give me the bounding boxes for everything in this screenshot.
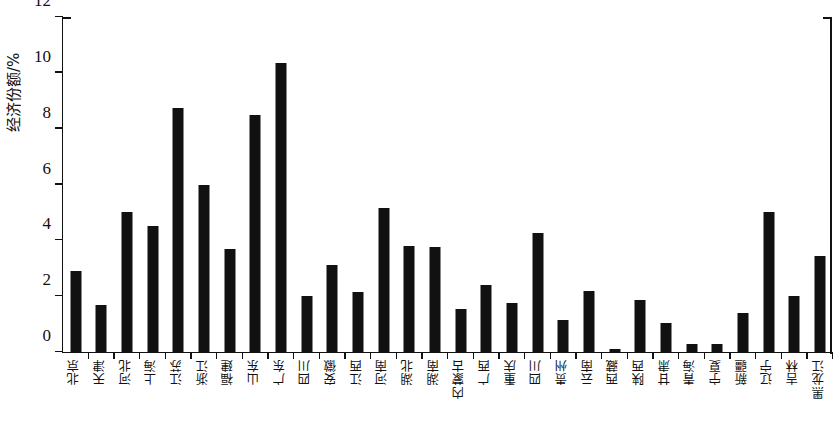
x-tick-mark (704, 352, 705, 359)
bar (661, 323, 672, 352)
bar-slot (653, 18, 679, 352)
bar-slot (499, 18, 525, 352)
x-tick-mark (344, 352, 345, 359)
bar-slot (782, 18, 808, 352)
x-tick-mark (242, 352, 243, 359)
bar (481, 285, 492, 352)
x-axis-label: 福建 (222, 358, 235, 385)
bar-slot (756, 18, 782, 352)
plot-area: 024681012 (62, 18, 832, 353)
x-axis-label: 宁夏 (710, 358, 723, 385)
x-tick-mark (806, 352, 807, 359)
bar (327, 265, 338, 352)
x-tick-mark (165, 352, 166, 359)
bar-slot (217, 18, 243, 352)
x-axis-label: 江苏 (171, 358, 184, 385)
x-tick-mark (575, 352, 576, 359)
bar-slot (448, 18, 474, 352)
y-tick-mark (55, 351, 63, 353)
bar-series (63, 18, 832, 352)
x-axis-label: 黑龙江 (813, 358, 826, 399)
x-tick-mark (216, 352, 217, 359)
bar (789, 296, 800, 352)
x-axis-label: 安徽 (325, 358, 338, 385)
x-tick-mark (370, 352, 371, 359)
x-axis-label: 湖北 (402, 358, 415, 385)
bar-slot (114, 18, 140, 352)
bar-slot (294, 18, 320, 352)
bar (532, 233, 543, 352)
bar-slot (320, 18, 346, 352)
bar-slot (730, 18, 756, 352)
bar-slot (705, 18, 731, 352)
x-tick-mark (293, 352, 294, 359)
bar-slot (397, 18, 423, 352)
x-axis-label: 内蒙古 (453, 358, 466, 399)
bar-chart: 经济份额/% 024681012 北京天津河北上海江苏浙江福建山东广东四川安徽江… (0, 0, 834, 421)
x-tick-mark (781, 352, 782, 359)
y-tick-mark (55, 127, 63, 129)
y-tick-label: 6 (43, 159, 52, 176)
x-axis-label: 上海 (145, 358, 158, 385)
y-tick-mark (55, 239, 63, 241)
x-tick-mark (421, 352, 422, 359)
bar (301, 296, 312, 352)
bar-slot (89, 18, 115, 352)
bar (96, 305, 107, 352)
x-tick-mark (729, 352, 730, 359)
bar (276, 63, 287, 352)
bar (763, 212, 774, 352)
bar-slot (807, 18, 833, 352)
x-tick-mark (601, 352, 602, 359)
bar-slot (166, 18, 192, 352)
x-axis-label: 新疆 (736, 358, 749, 385)
x-axis-label: 河北 (120, 358, 133, 385)
bar-slot (63, 18, 89, 352)
bar (224, 249, 235, 352)
bar-slot (191, 18, 217, 352)
bar-slot (679, 18, 705, 352)
x-tick-mark (113, 352, 114, 359)
y-tick-mark (55, 183, 63, 185)
x-axis-label: 浙江 (197, 358, 210, 385)
bar-slot (576, 18, 602, 352)
bar (70, 271, 81, 352)
x-tick-mark (396, 352, 397, 359)
x-axis-label: 甘肃 (659, 358, 672, 385)
bar (455, 309, 466, 352)
x-tick-mark (627, 352, 628, 359)
x-axis-label: 河南 (376, 358, 389, 385)
x-axis-label: 江西 (351, 358, 364, 385)
x-axis-label: 辽宁 (761, 358, 774, 385)
bar (712, 344, 723, 352)
x-axis-label: 四川 (299, 358, 312, 385)
x-axis-label: 青海 (684, 358, 697, 385)
bar (558, 320, 569, 352)
bar-slot (628, 18, 654, 352)
y-tick-label: 0 (43, 327, 52, 344)
x-tick-mark (524, 352, 525, 359)
x-axis-label: 天津 (94, 358, 107, 385)
bar-slot (243, 18, 269, 352)
x-axis-label: 吉林 (787, 358, 800, 385)
x-tick-mark (832, 352, 833, 359)
bar-slot (422, 18, 448, 352)
x-tick-mark (678, 352, 679, 359)
bar-slot (345, 18, 371, 352)
x-tick-mark (755, 352, 756, 359)
bar (147, 226, 158, 352)
bar (404, 246, 415, 352)
bar (738, 313, 749, 352)
bar-slot (268, 18, 294, 352)
bar-slot (474, 18, 500, 352)
x-axis-label: 贵州 (556, 358, 569, 385)
x-axis-label: 北京 (68, 358, 81, 385)
bar (584, 291, 595, 352)
bar (378, 208, 389, 352)
bar (199, 185, 210, 353)
x-tick-mark (267, 352, 268, 359)
x-tick-mark (139, 352, 140, 359)
bar (609, 349, 620, 352)
x-axis-label: 云南 (582, 358, 595, 385)
y-tick-label: 10 (34, 47, 51, 64)
